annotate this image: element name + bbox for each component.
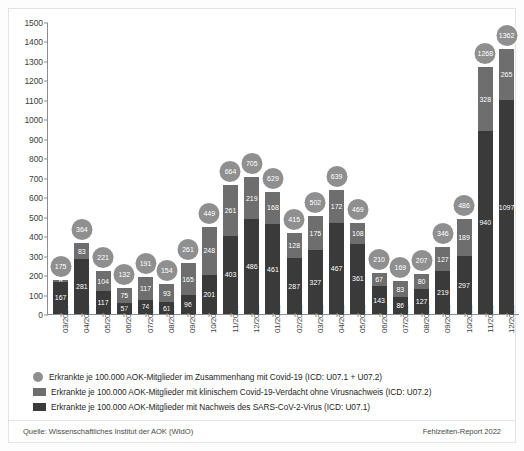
bar-segment-suspected[interactable]: 75	[117, 288, 132, 303]
x-axis-label-cell: 10/2020	[199, 317, 220, 363]
bar-segment-value: 165	[182, 276, 194, 283]
bar-column[interactable]: 469108361	[347, 23, 368, 314]
bar-segment-suspected[interactable]: 117	[138, 277, 153, 300]
stacked-bar[interactable]: 175327	[308, 216, 323, 314]
bar-segment-suspected[interactable]: 219	[244, 177, 259, 220]
bar-column[interactable]: 502175327	[305, 23, 326, 314]
bar-segment-value: 172	[331, 203, 343, 210]
bar-segment-suspected[interactable]: 83	[74, 243, 89, 259]
total-value-bubble: 346	[432, 223, 453, 244]
bar-segment-value: 248	[203, 247, 215, 254]
stacked-bar[interactable]: 261403	[223, 185, 238, 314]
y-axis-tick-label: 500	[13, 213, 43, 223]
x-axis-tick-label: 02/2021	[295, 305, 304, 333]
bar-segment-value: 117	[140, 285, 151, 292]
bar-column[interactable]: 1698386	[390, 23, 411, 314]
bar-column[interactable]: 19111774	[135, 23, 156, 314]
bar-segment-suspected[interactable]: 128	[287, 233, 302, 258]
total-value-bubble: 191	[135, 253, 156, 274]
total-value-bubble: 207	[411, 250, 432, 271]
stacked-bar[interactable]: 83281	[74, 243, 89, 314]
bar-column[interactable]: 26116596	[177, 23, 198, 314]
bar-segment-suspected[interactable]: 175	[308, 216, 323, 250]
total-value-bubble: 221	[93, 247, 114, 268]
bar-column[interactable]: 36483281	[71, 23, 92, 314]
chart-frame: 0100200300400500600700800900100011001200…	[8, 8, 516, 443]
plot-area: 0100200300400500600700800900100011001200…	[47, 23, 519, 315]
stacked-bar[interactable]: 328940	[478, 67, 493, 314]
bar-column[interactable]: 629168461	[262, 23, 283, 314]
bar-column[interactable]: 486189297	[453, 23, 474, 314]
bar-segment-suspected[interactable]: 108	[350, 223, 365, 244]
bar-column[interactable]: 415128287	[284, 23, 305, 314]
bar-segment-suspected[interactable]: 67	[372, 273, 387, 286]
bar-column[interactable]: 13622651097	[496, 23, 517, 314]
bar-segment-suspected[interactable]: 83	[393, 281, 408, 297]
bar-segment-suspected[interactable]: 127	[435, 247, 450, 272]
bar-segment-value: 104	[97, 278, 109, 285]
bar-segment-suspected[interactable]: 165	[181, 263, 196, 295]
stacked-bar[interactable]: 219486	[244, 177, 259, 314]
stacked-bar[interactable]: 172467	[329, 190, 344, 314]
bar-segment-value: 219	[437, 289, 449, 296]
bar-segment-suspected[interactable]: 265	[499, 49, 514, 101]
x-axis-label-cell: 05/2020	[93, 317, 114, 363]
stacked-bar[interactable]: 189297	[457, 219, 472, 314]
total-value-bubble: 132	[114, 264, 135, 285]
bar-column[interactable]: 705219486	[241, 23, 262, 314]
bar-column[interactable]: 221104117	[92, 23, 113, 314]
x-axis-tick-label: 05/2020	[103, 305, 112, 333]
bar-segment-value: 327	[310, 279, 322, 286]
bar-segment-suspected[interactable]: 189	[457, 219, 472, 256]
bar-column[interactable]: 639172467	[326, 23, 347, 314]
bar-column[interactable]: 664261403	[220, 23, 241, 314]
bar-column[interactable]: 1268328940	[475, 23, 496, 314]
bar-segment-suspected[interactable]: 104	[96, 271, 111, 291]
y-axis-tick-label: 100	[13, 291, 43, 301]
x-axis-tick-label: 09/2020	[188, 305, 197, 333]
y-axis-tick-label: 300	[13, 252, 43, 262]
bar-segment-suspected[interactable]: 172	[329, 190, 344, 223]
y-axis-tick-label: 1400	[13, 37, 43, 47]
y-axis-tick-label: 1100	[13, 96, 43, 106]
bar-segment-suspected[interactable]: 168	[265, 192, 280, 225]
bar-column[interactable]: 1549361	[156, 23, 177, 314]
bar-segment-confirmed[interactable]: 403	[223, 236, 238, 314]
bar-column[interactable]: 1327557	[114, 23, 135, 314]
x-axis-tick-label: 04/2021	[337, 305, 346, 333]
x-axis-label-cell: 11/2020	[220, 317, 241, 363]
x-axis-label-cell: 04/2020	[71, 317, 92, 363]
x-axis-tick-label: 11/2021	[486, 305, 495, 333]
bar-segment-confirmed[interactable]: 461	[265, 224, 280, 314]
stacked-bar[interactable]: 128287	[287, 233, 302, 314]
x-axis-label-cell: 07/2021	[390, 317, 411, 363]
bar-segment-confirmed[interactable]: 467	[329, 223, 344, 314]
bar-column[interactable]: 449248201	[199, 23, 220, 314]
bar-column[interactable]: 21067143	[369, 23, 390, 314]
bar-segment-value: 175	[310, 230, 322, 237]
bar-segment-suspected[interactable]: 93	[159, 284, 174, 302]
bar-segment-suspected[interactable]: 248	[202, 227, 217, 275]
bar-segment-suspected[interactable]: 261	[223, 185, 238, 236]
bar-column[interactable]: 346127219	[432, 23, 453, 314]
bar-column[interactable]: 20780127	[411, 23, 432, 314]
stacked-bar[interactable]: 127219	[435, 247, 450, 314]
stacked-bar[interactable]: 168461	[265, 192, 280, 314]
y-axis-tick-label: 0	[13, 310, 43, 320]
x-axis-tick-label: 06/2020	[124, 305, 133, 333]
bar-segment-confirmed[interactable]: 1097	[499, 100, 514, 314]
bar-segment-suspected[interactable]: 80	[414, 274, 429, 290]
stacked-bar[interactable]: 2651097	[499, 49, 514, 314]
bar-segment-confirmed[interactable]: 486	[244, 219, 259, 314]
stacked-bar[interactable]: 248201	[202, 227, 217, 314]
stacked-bar[interactable]: 108361	[350, 223, 365, 314]
bar-segment-confirmed[interactable]: 940	[478, 131, 493, 314]
bar-segment-confirmed[interactable]: 361	[350, 244, 365, 314]
bar-segment-suspected[interactable]: 328	[478, 67, 493, 131]
bar-segment-value: 75	[120, 292, 128, 299]
x-axis-tick-label: 05/2021	[358, 305, 367, 333]
x-axis-label-cell: 10/2021	[454, 317, 475, 363]
total-value-bubble: 502	[305, 192, 326, 213]
source-note: Quelle: Wissenschaftliches Institut der …	[23, 427, 193, 436]
bar-column[interactable]: 1758167	[50, 23, 71, 314]
